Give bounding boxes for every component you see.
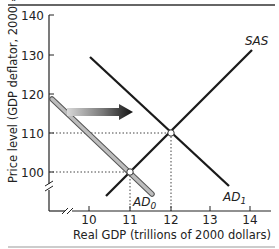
shift-right-arrow-icon <box>67 104 133 120</box>
x-tick-labels: 10 11 12 13 14 <box>81 213 257 227</box>
svg-text:13: 13 <box>202 213 217 227</box>
x-axis-label: Real GDP (trillions of 2000 dollars) <box>73 228 271 242</box>
svg-text:10: 10 <box>81 213 96 227</box>
svg-text:120: 120 <box>21 88 44 102</box>
svg-text:14: 14 <box>242 213 257 227</box>
ad-as-chart: Price level (GDP deflator, 2000 = 100) <box>0 0 279 249</box>
svg-text:11: 11 <box>122 213 137 227</box>
svg-text:12: 12 <box>163 213 178 227</box>
guide-lines <box>49 133 171 211</box>
ad1-curve <box>90 57 229 186</box>
equilibrium-point-new <box>168 130 174 136</box>
sas-label: SAS <box>245 34 269 48</box>
y-axis-label: Price level (GDP deflator, 2000 = 100) <box>6 0 20 183</box>
svg-text:110: 110 <box>21 127 44 141</box>
svg-text:100: 100 <box>21 166 44 180</box>
ad1-label: AD1 <box>222 190 246 206</box>
ad0-label: AD0 <box>132 195 156 211</box>
equilibrium-point-initial <box>127 169 133 175</box>
svg-text:140: 140 <box>21 9 44 23</box>
svg-text:130: 130 <box>21 49 44 63</box>
y-tick-labels: 140 130 120 110 100 <box>21 9 44 180</box>
